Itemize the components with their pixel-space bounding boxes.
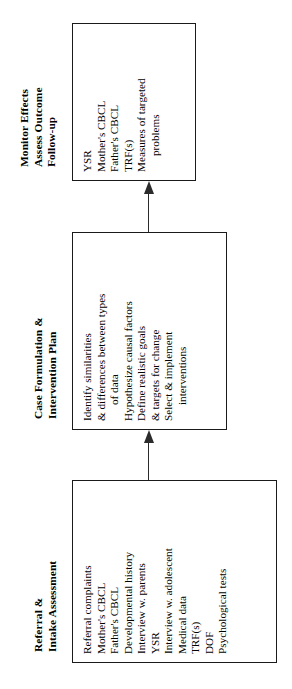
title-line: Intervention Plan — [46, 317, 60, 419]
list-item: Psychological tests — [216, 548, 230, 654]
title-line: Follow-up — [45, 87, 59, 167]
stage-title-case-formulation: Case Formulation & Intervention Plan — [32, 317, 59, 419]
list-item: & differences between types — [95, 294, 109, 421]
list-item: & targets for change — [149, 294, 163, 421]
list-item: Mother's CBCL — [95, 548, 109, 654]
list-item: Medical data — [176, 548, 190, 654]
list-item: YSR — [81, 78, 95, 172]
stage-items-referral-intake: Referral complaints Mother's CBCL Father… — [81, 548, 230, 654]
diagram-canvas: Monitor Effects Assess Outcome Follow-up… — [0, 0, 292, 689]
stage-title-referral-intake: Referral & Intake Assessment — [32, 561, 59, 652]
title-line: Case Formulation & — [32, 317, 46, 419]
stage-title-monitor-outcome: Monitor Effects Assess Outcome Follow-up — [18, 87, 59, 167]
list-item: of data — [108, 294, 122, 421]
list-item: Measures of targeted — [135, 78, 149, 172]
list-item: Interview w. adolescent — [162, 548, 176, 654]
stage-items-monitor-outcome: YSR Mother's CBCL Father's CBCL TRF(s) M… — [81, 78, 162, 172]
list-item: TRF(s) — [189, 548, 203, 654]
list-item: Father's CBCL — [108, 548, 122, 654]
list-item: problems — [149, 78, 163, 172]
list-item: YSR — [149, 548, 163, 654]
list-item: DOF — [203, 548, 217, 654]
connector-shaft — [148, 192, 149, 232]
arrowhead-up-icon — [144, 430, 154, 443]
stage-items-case-formulation: Identify similarities & differences betw… — [81, 294, 189, 421]
arrowhead-up-icon — [144, 181, 154, 194]
list-item: Referral complaints — [81, 548, 95, 654]
list-item: Define realistic goals — [135, 294, 149, 421]
list-item: Identify similarities — [81, 294, 95, 421]
list-item: Select & implement — [162, 294, 176, 421]
title-line: Monitor Effects — [18, 87, 32, 167]
list-item: TRF(s) — [122, 78, 136, 172]
list-item: Mother's CBCL — [95, 78, 109, 172]
list-item: Interview w. parents — [135, 548, 149, 654]
list-item: Developmental history — [122, 548, 136, 654]
list-item: interventions — [176, 294, 190, 421]
list-item: Father's CBCL — [108, 78, 122, 172]
title-line: Assess Outcome — [32, 87, 46, 167]
list-item: Hypothesize causal factors — [122, 294, 136, 421]
title-line: Intake Assessment — [46, 561, 60, 652]
connector-shaft — [148, 441, 149, 480]
title-line: Referral & — [32, 561, 46, 652]
